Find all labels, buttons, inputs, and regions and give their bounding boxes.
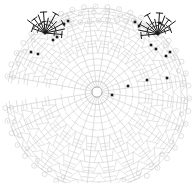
crochet-chart-canvas [0, 0, 195, 183]
stitch-diagram [0, 0, 195, 183]
